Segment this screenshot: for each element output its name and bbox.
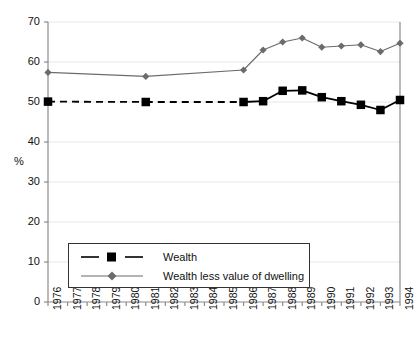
data-point-marker	[239, 98, 248, 107]
x-axis-tick-label: 1987	[267, 287, 278, 310]
data-point-marker	[396, 96, 405, 105]
x-axis-tick-label: 1982	[169, 287, 180, 310]
x-axis-tick-label: 1992	[365, 287, 376, 310]
y-axis-tick-label: 60	[8, 56, 40, 67]
y-axis-tick-label: 0	[8, 296, 40, 307]
data-point-marker	[357, 41, 364, 48]
x-axis-tick-label: 1979	[111, 287, 122, 310]
data-point-marker	[298, 86, 307, 95]
legend-swatch-wealth-less-dwelling	[79, 270, 157, 282]
y-axis-tick-label: 30	[8, 176, 40, 187]
x-axis-tick-label: 1978	[91, 287, 102, 310]
gridlines-group	[48, 22, 400, 262]
series-line-segment	[263, 42, 283, 50]
x-axis-tick-label: 1981	[150, 287, 161, 310]
data-point-marker	[377, 48, 384, 55]
data-point-marker	[44, 69, 51, 76]
x-axis-tick-label: 1989	[306, 287, 317, 310]
x-axis-tick-label: 1985	[228, 287, 239, 310]
x-axis-tick-label: 1976	[52, 287, 63, 310]
series-line-segment	[146, 70, 244, 76]
series-line-segment	[48, 72, 146, 76]
data-point-marker	[318, 93, 327, 102]
legend-swatch-wealth	[79, 251, 157, 263]
y-axis-tick-label: 70	[8, 16, 40, 27]
chart-container: 706050403020100 197619771978197919801981…	[0, 0, 417, 358]
x-axis-tick-label: 1984	[208, 287, 219, 310]
legend-label-wealth-less-dwelling: Wealth less value of dwelling	[163, 270, 304, 282]
data-point-marker	[142, 73, 149, 80]
x-axis-tick-label: 1988	[287, 287, 298, 310]
y-axis-tick-label: 50	[8, 96, 40, 107]
x-axis-tick-label: 1990	[326, 287, 337, 310]
data-point-marker	[337, 97, 346, 106]
data-point-marker	[278, 87, 287, 96]
x-axis-tick-label: 1983	[189, 287, 200, 310]
series-line-segment	[302, 38, 322, 47]
data-point-marker	[396, 40, 403, 47]
y-axis-tick-label: 40	[8, 136, 40, 147]
legend-item-wealth-less-dwelling: Wealth less value of dwelling	[79, 270, 304, 282]
data-point-marker	[279, 38, 286, 45]
y-axis-unit-label: %	[14, 155, 24, 167]
y-axis-tick-label: 20	[8, 216, 40, 227]
data-series-group	[44, 34, 405, 114]
data-point-marker	[338, 42, 345, 49]
data-point-marker	[318, 44, 325, 51]
series-line-segment	[380, 43, 400, 51]
x-axis-tick-label: 1993	[384, 287, 395, 310]
series-line-segment	[361, 45, 381, 52]
data-point-marker	[299, 34, 306, 41]
data-point-marker	[376, 106, 385, 115]
x-axis-tick-label: 1977	[72, 287, 83, 310]
y-axis-tick-label: 10	[8, 256, 40, 267]
x-axis-tick-label: 1986	[248, 287, 259, 310]
data-point-marker	[357, 101, 366, 110]
series-line-segment	[244, 50, 264, 70]
chart-legend: Wealth Wealth less value of dwelling	[68, 243, 310, 288]
data-point-marker	[142, 98, 151, 107]
legend-item-wealth: Wealth	[79, 251, 197, 263]
legend-label-wealth: Wealth	[163, 251, 197, 263]
x-axis-tick-label: 1994	[404, 287, 415, 310]
x-axis-tick-label: 1980	[130, 287, 141, 310]
x-axis-tick-label: 1991	[345, 287, 356, 310]
data-point-marker	[259, 97, 268, 106]
data-point-marker	[44, 97, 53, 106]
